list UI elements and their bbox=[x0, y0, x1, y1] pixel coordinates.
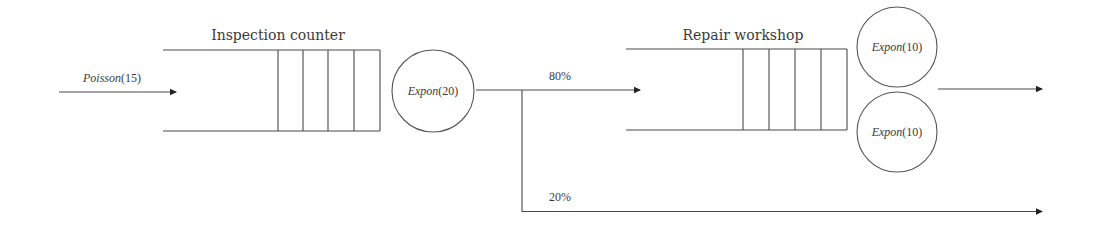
repair-workshop-station: Repair workshop Expon(10) Expon(10) bbox=[626, 7, 1042, 172]
inspection-server-label: Expon(20) bbox=[407, 84, 459, 98]
inspection-counter-title: Inspection counter bbox=[211, 27, 345, 43]
arrival-flow: Poisson(15) bbox=[59, 71, 176, 92]
queueing-diagram: Poisson(15) Inspection counter Expon(20)… bbox=[0, 0, 1095, 225]
arrival-label: Poisson(15) bbox=[82, 71, 141, 85]
repair-workshop-title: Repair workshop bbox=[683, 27, 804, 43]
bypass-label: 20% bbox=[549, 190, 571, 204]
repair-server-2-label: Expon(10) bbox=[871, 125, 923, 139]
route-to-repair-label: 80% bbox=[549, 69, 571, 83]
inspection-counter-station: Inspection counter Expon(20) bbox=[163, 27, 474, 132]
repair-server-1-label: Expon(10) bbox=[871, 40, 923, 54]
routing-split: 80% 20% bbox=[476, 69, 1042, 212]
